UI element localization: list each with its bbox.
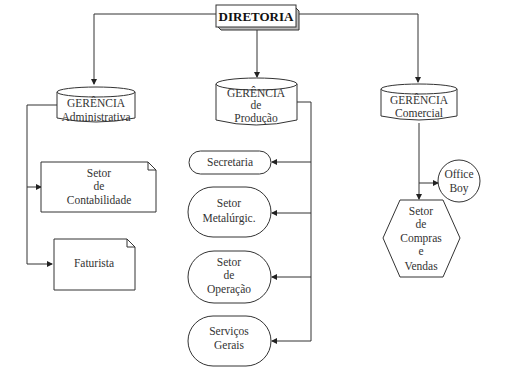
svg-text:Office: Office xyxy=(444,168,473,180)
svg-text:Comercial: Comercial xyxy=(395,107,443,119)
svg-text:Gerais: Gerais xyxy=(214,339,245,351)
production-connectors xyxy=(272,102,311,341)
svg-text:Setor: Setor xyxy=(409,205,433,217)
org-chart: DIRETORIA GERÊNCIA Administrativa GERÊNC… xyxy=(0,0,508,386)
setor-operacao[interactable]: Setor de Operação xyxy=(188,251,271,303)
svg-text:Serviços: Serviços xyxy=(209,325,249,338)
secretaria[interactable]: Secretaria xyxy=(189,151,271,174)
svg-text:GERÊNCIA: GERÊNCIA xyxy=(227,86,286,99)
svg-text:de: de xyxy=(224,269,235,281)
svg-text:Operação: Operação xyxy=(207,283,251,296)
svg-text:GERÊNCIA: GERÊNCIA xyxy=(67,96,126,109)
svg-text:de: de xyxy=(416,218,427,230)
svg-text:Faturista: Faturista xyxy=(74,257,114,269)
svg-text:Vendas: Vendas xyxy=(404,260,438,272)
svg-text:Produção: Produção xyxy=(234,112,278,125)
setor-compras-vendas[interactable]: Setor de Compras e Vendas xyxy=(383,200,460,277)
svg-text:Compras: Compras xyxy=(400,232,442,245)
svg-text:Setor: Setor xyxy=(217,197,241,209)
svg-text:Setor: Setor xyxy=(217,256,241,268)
svg-text:Administrativa: Administrativa xyxy=(62,111,131,123)
commercial-connectors xyxy=(419,123,438,199)
faturista[interactable]: Faturista xyxy=(54,239,135,290)
svg-text:de: de xyxy=(251,99,262,111)
svg-text:Metalúrgic.: Metalúrgic. xyxy=(202,212,255,225)
setor-contabilidade[interactable]: Setor de Contabilidade xyxy=(41,162,156,212)
svg-text:Contabilidade: Contabilidade xyxy=(67,194,132,206)
svg-text:Setor: Setor xyxy=(87,167,111,179)
gerencia-comercial[interactable]: GERÊNCIA Comercial xyxy=(381,84,457,120)
setor-metalurgico[interactable]: Setor Metalúrgic. xyxy=(188,187,271,237)
office-boy[interactable]: Office Boy xyxy=(438,160,480,202)
svg-text:Boy: Boy xyxy=(449,182,468,195)
diretoria-label: DIRETORIA xyxy=(219,9,295,24)
diretoria-box[interactable]: DIRETORIA xyxy=(216,5,299,30)
svg-text:de: de xyxy=(94,180,105,192)
servicos-gerais[interactable]: Serviços Gerais xyxy=(188,316,271,366)
svg-text:GERÊNCIA: GERÊNCIA xyxy=(390,93,449,106)
gerencia-administrativa[interactable]: GERÊNCIA Administrativa xyxy=(57,87,135,123)
svg-text:e: e xyxy=(418,245,423,257)
gerencia-producao[interactable]: GERÊNCIA de Produção xyxy=(216,78,297,125)
svg-text:Secretaria: Secretaria xyxy=(207,156,253,168)
